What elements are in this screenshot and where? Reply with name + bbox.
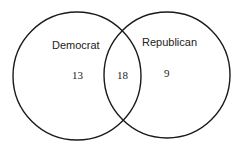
venn-diagram: Democrat Republican 13 18 9 — [0, 0, 244, 150]
democrat-label: Democrat — [52, 39, 100, 51]
republican-only-count: 9 — [164, 67, 170, 79]
republican-label: Republican — [142, 36, 197, 48]
democrat-only-count: 13 — [72, 69, 84, 81]
intersection-count: 18 — [117, 69, 129, 81]
